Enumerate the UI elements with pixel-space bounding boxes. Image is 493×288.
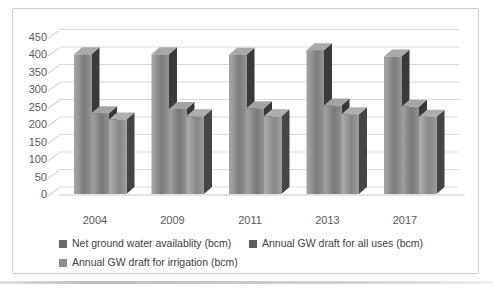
y-tick-200 — [48, 118, 59, 126]
bar-2011-series3 — [264, 109, 290, 194]
x-axis-label-2004: 2004 — [83, 214, 107, 226]
y-axis-tick-label-150: 150 — [29, 136, 47, 148]
bar-2013-series3 — [342, 107, 368, 194]
x-axis-label-2017: 2017 — [393, 214, 417, 226]
bar-2004-series3 — [109, 112, 135, 194]
series1-legend-label: Net ground water availablity (bcm) — [72, 237, 231, 250]
y-tick-250 — [48, 101, 59, 109]
plot-area: 0501001502002503003504004502004200920112… — [13, 9, 480, 231]
y-axis-tick-label-100: 100 — [29, 153, 47, 165]
y-axis-tick-label-300: 300 — [29, 83, 47, 95]
series2-legend-label: Annual GW draft for all uses (bcm) — [262, 237, 423, 250]
y-tick-450 — [48, 31, 59, 39]
chart-frame: 0501001502002503003504004502004200920112… — [12, 8, 479, 274]
x-axis-label-2013: 2013 — [315, 214, 339, 226]
series1-legend-marker-icon — [59, 240, 67, 248]
y-axis-tick-label-350: 350 — [29, 66, 47, 78]
chart-screenshot: 0501001502002503003504004502004200920112… — [0, 0, 493, 288]
y-axis-tick-label-50: 50 — [35, 171, 47, 183]
series2-legend-marker-icon — [249, 240, 257, 248]
x-axis-label-2009: 2009 — [160, 214, 184, 226]
y-axis-tick-label-400: 400 — [29, 48, 47, 60]
legend-item-net-ground-water-availability: Net ground water availablity (bcm) — [59, 237, 231, 250]
y-axis-tick-label-250: 250 — [29, 101, 47, 113]
y-tick-0 — [48, 188, 59, 196]
y-axis-tick-label-200: 200 — [29, 118, 47, 130]
bar-2017-series3 — [419, 110, 445, 194]
y-tick-100 — [48, 153, 59, 161]
y-axis-tick-label-450: 450 — [29, 31, 47, 43]
y-tick-150 — [48, 136, 59, 144]
y-tick-350 — [48, 66, 59, 74]
y-tick-400 — [48, 48, 59, 56]
series3-legend-marker-icon — [59, 259, 67, 267]
y-axis-tick-label-0: 0 — [41, 188, 47, 200]
photo-edge-artifact — [0, 281, 493, 284]
legend-item-annual-gw-draft-all-uses: Annual GW draft for all uses (bcm) — [249, 237, 423, 250]
x-axis-label-2011: 2011 — [238, 214, 262, 226]
y-tick-50 — [48, 171, 59, 179]
series3-legend-label: Annual GW draft for irrigation (bcm) — [72, 256, 238, 269]
y-tick-300 — [48, 83, 59, 91]
bar-2009-series3 — [187, 109, 213, 194]
legend-item-annual-gw-draft-irrigation: Annual GW draft for irrigation (bcm) — [59, 256, 238, 269]
